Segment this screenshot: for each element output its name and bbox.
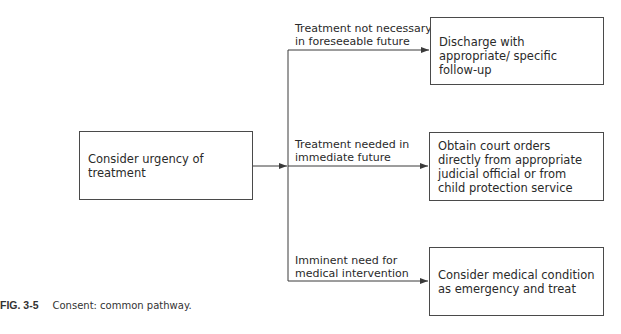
source-box: Consider urgency of treatment [79, 131, 253, 200]
branch-2-label: Treatment needed in immediate future [295, 138, 409, 164]
outcome-box-discharge: Discharge with appropriate/ specific fol… [430, 17, 604, 85]
source-text: Consider urgency of treatment [88, 152, 244, 180]
outcome-text: Consider medical condition as emergency … [438, 268, 595, 296]
caption-text: Consent: common pathway. [53, 300, 192, 311]
outcome-box-emergency: Consider medical condition as emergency … [429, 247, 604, 316]
branch-3-label: Imminent need for medical intervention [295, 254, 409, 280]
figure-caption: FIG. 3-5Consent: common pathway. [0, 299, 192, 311]
figure-number: FIG. 3-5 [0, 299, 39, 311]
outcome-box-court-orders: Obtain court orders directly from approp… [429, 132, 604, 201]
outcome-text: Obtain court orders directly from approp… [438, 139, 595, 195]
outcome-text: Discharge with appropriate/ specific fol… [439, 35, 595, 77]
branch-1-label: Treatment not necessary in foreseeable f… [295, 22, 432, 48]
